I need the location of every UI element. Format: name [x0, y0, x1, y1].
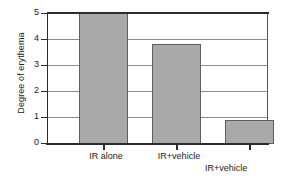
axis-top-rule	[47, 12, 269, 14]
x-tick-label-line-1: IR+vehicle	[205, 163, 247, 173]
y-tick-label-1: 1	[27, 111, 39, 122]
x-tick-label-ir-vehicle-antioxidant: IR+vehicle + antioxidant	[205, 150, 283, 179]
y-tick-mark-5	[41, 13, 47, 14]
bar-ir-alone	[79, 13, 128, 144]
y-tick-label-0: 0	[27, 137, 39, 148]
y-tick-label-3: 3	[27, 59, 39, 70]
y-axis-title: Degree of erythema	[14, 1, 28, 145]
axis-baseline	[46, 143, 269, 145]
plot-area	[47, 13, 268, 144]
y-tick-label-4: 4	[27, 33, 39, 44]
y-tick-mark-2	[41, 91, 47, 92]
y-tick-label-2: 2	[27, 85, 39, 96]
y-tick-label-5: 5	[27, 7, 39, 18]
y-tick-mark-1	[41, 117, 47, 118]
x-tick-label-ir-alone: IR alone	[66, 150, 146, 162]
y-tick-mark-4	[41, 39, 47, 40]
bar-chart-figure: Degree of erythema 5 4 3 2 1 0 IR alone …	[0, 0, 284, 179]
y-tick-mark-3	[41, 65, 47, 66]
bar-ir-vehicle	[152, 44, 201, 144]
y-tick-mark-0	[41, 143, 47, 144]
bar-ir-vehicle-antioxidant	[225, 120, 274, 144]
